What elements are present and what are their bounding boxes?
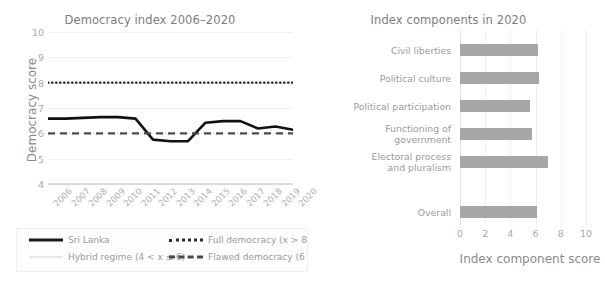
line-chart-y-tick: 9 bbox=[38, 52, 44, 63]
line-chart-x-tick-labels: 2006200720082009201020112012201320142015… bbox=[48, 186, 293, 220]
bar-chart-x-tick: 8 bbox=[558, 228, 564, 239]
line-chart-y-tick-labels: 45678910 bbox=[22, 32, 44, 184]
bar-chart-category-label: Electoral process and pluralism bbox=[372, 151, 451, 173]
bar-chart-category-label: Political culture bbox=[380, 73, 451, 84]
legend-label: Hybrid regime (4 < x ≤ 6) bbox=[68, 252, 185, 262]
bar-chart-x-tick: 4 bbox=[507, 228, 513, 239]
bar-chart-x-tick: 10 bbox=[580, 228, 592, 239]
line-chart-legend: Sri Lanka Hybrid regime (4 < x ≤ 6) Full… bbox=[16, 228, 308, 272]
bar-overall[interactable] bbox=[460, 206, 537, 218]
bar-political-culture[interactable] bbox=[460, 72, 539, 84]
line-chart-plot-area bbox=[48, 32, 293, 184]
line-chart-y-tick: 8 bbox=[38, 77, 44, 88]
line-chart-x-tick: 2014 bbox=[191, 186, 214, 209]
line-chart-x-tick: 2017 bbox=[244, 186, 267, 209]
legend-label: Sri Lanka bbox=[68, 235, 110, 245]
line-chart-x-tick: 2016 bbox=[226, 186, 249, 209]
bar-chart-gridline bbox=[536, 30, 537, 225]
line-chart-x-tick: 2008 bbox=[86, 186, 109, 209]
bar-chart-title: Index components in 2020 bbox=[300, 13, 597, 27]
bar-chart-x-axis-label: Index component score bbox=[440, 252, 605, 266]
line-chart-y-tick: 10 bbox=[32, 27, 44, 38]
bar-chart-plot-area bbox=[460, 30, 586, 225]
line-chart-x-tick: 2015 bbox=[209, 186, 232, 209]
line-chart-x-tick: 2010 bbox=[121, 186, 144, 209]
bar-chart-gridline bbox=[561, 30, 562, 225]
line-chart-x-tick: 2018 bbox=[261, 186, 284, 209]
bar-political-participation[interactable] bbox=[460, 100, 530, 112]
line-chart-y-tick: 5 bbox=[38, 153, 44, 164]
bar-chart-category-label: Political participation bbox=[354, 101, 451, 112]
line-chart-x-tick: 2012 bbox=[156, 186, 179, 209]
legend-item-hybrid-regime[interactable]: Hybrid regime (4 < x ≤ 6) bbox=[29, 252, 185, 262]
line-chart-x-tick: 2006 bbox=[51, 186, 74, 209]
legend-item-flawed-democracy[interactable]: Flawed democracy (6 < x ≤ 8) bbox=[169, 252, 308, 262]
legend-item-full-democracy[interactable]: Full democracy (x > 8) bbox=[169, 235, 308, 245]
series-line-sri-lanka bbox=[48, 117, 293, 141]
bar-functioning-of-government[interactable] bbox=[460, 128, 532, 140]
line-chart-title: Democracy index 2006–2020 bbox=[0, 13, 300, 27]
line-chart-series-svg bbox=[48, 32, 293, 184]
bar-chart-x-tick: 6 bbox=[533, 228, 539, 239]
legend-label: Flawed democracy (6 < x ≤ 8) bbox=[208, 252, 308, 262]
bar-chart-x-tick: 0 bbox=[457, 228, 463, 239]
bar-chart-category-labels: Civil libertiesPolitical culturePolitica… bbox=[302, 30, 457, 225]
line-chart-y-tick: 6 bbox=[38, 128, 44, 139]
bar-chart-x-tick-labels: 0246810 bbox=[460, 228, 600, 242]
line-chart-x-tick: 2019 bbox=[279, 186, 302, 209]
legend-item-sri-lanka[interactable]: Sri Lanka bbox=[29, 235, 110, 245]
bar-electoral-process-and-pluralism[interactable] bbox=[460, 156, 548, 168]
bar-chart-x-tick: 2 bbox=[482, 228, 488, 239]
democracy-index-line-chart-panel: Democracy index 2006–2020 Democracy scor… bbox=[0, 0, 300, 286]
bar-chart-category-label: Overall bbox=[418, 207, 451, 218]
legend-key-solid-icon bbox=[29, 235, 63, 245]
bar-chart-category-label: Functioning of government bbox=[385, 123, 451, 145]
legend-label: Full democracy (x > 8) bbox=[208, 235, 308, 245]
legend-key-dashed-icon bbox=[169, 252, 203, 262]
line-chart-x-tick: 2013 bbox=[174, 186, 197, 209]
line-chart-y-tick: 4 bbox=[38, 179, 44, 190]
line-chart-y-tick: 7 bbox=[38, 103, 44, 114]
bar-chart-gridline bbox=[586, 30, 587, 225]
line-chart-x-tick: 2011 bbox=[139, 186, 162, 209]
line-chart-x-tick: 2009 bbox=[104, 186, 127, 209]
bar-chart-category-label: Civil liberties bbox=[391, 45, 451, 56]
legend-key-light-line-icon bbox=[29, 252, 63, 262]
index-components-bar-chart-panel: Index components in 2020 Civil liberties… bbox=[300, 0, 597, 286]
legend-key-dotted-icon bbox=[169, 235, 203, 245]
line-chart-x-tick: 2007 bbox=[69, 186, 92, 209]
bar-civil-liberties[interactable] bbox=[460, 44, 538, 56]
